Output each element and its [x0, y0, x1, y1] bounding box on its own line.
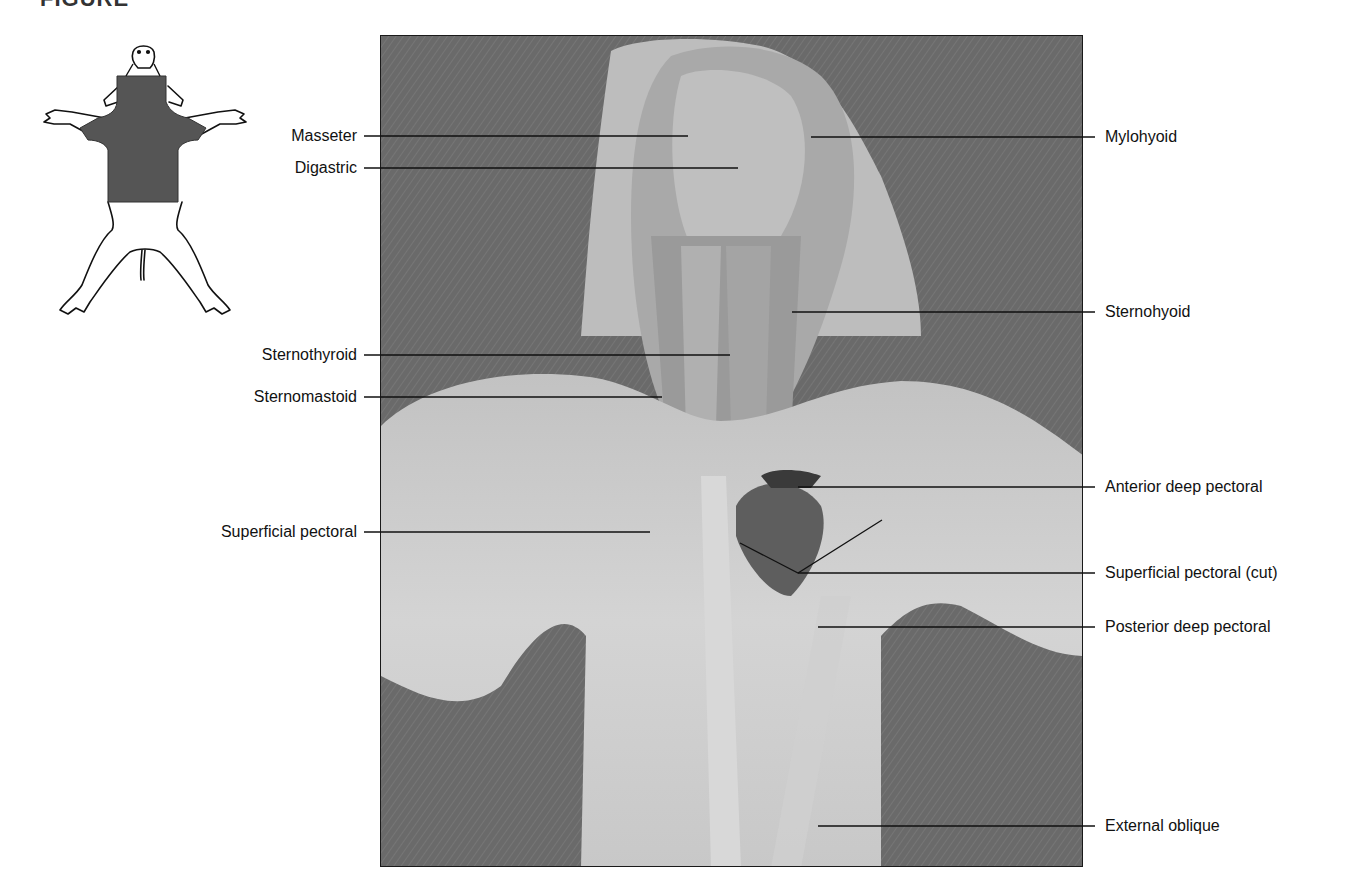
pig-orientation-inset [20, 40, 270, 330]
label-digastric: Digastric [295, 159, 357, 177]
label-mylohyoid: Mylohyoid [1105, 128, 1177, 146]
shaded-region [80, 76, 206, 202]
figure-heading-fragment: FIGURE [0, 0, 420, 6]
label-masseter: Masseter [291, 127, 357, 145]
figure-heading-text: FIGURE [40, 0, 129, 12]
label-posterior-deep-pectoral: Posterior deep pectoral [1105, 618, 1270, 636]
dissection-photograph [380, 35, 1083, 867]
label-anterior-deep-pectoral: Anterior deep pectoral [1105, 478, 1262, 496]
label-sternohyoid: Sternohyoid [1105, 303, 1190, 321]
label-sternothyroid: Sternothyroid [262, 346, 357, 364]
label-sternomastoid: Sternomastoid [254, 388, 357, 406]
label-external-oblique: External oblique [1105, 817, 1220, 835]
label-superficial-pectoral-cut: Superficial pectoral (cut) [1105, 564, 1278, 582]
label-superficial-pectoral: Superficial pectoral [221, 523, 357, 541]
